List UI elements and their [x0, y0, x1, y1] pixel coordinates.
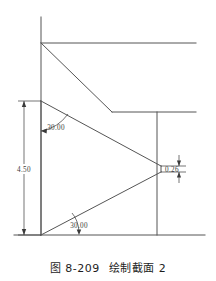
cad-drawing-canvas: 4.50 4.50 30.00 30.00 0.26 — [0, 0, 216, 281]
technical-drawing-figure: 4.50 4.50 30.00 30.00 0.26 — [0, 0, 216, 281]
wedge-upper-face — [41, 101, 161, 166]
figure-caption: 图 8-209绘制截面 2 — [0, 259, 216, 275]
height-arrow-bottom — [22, 229, 26, 235]
figure-caption-title: 绘制截面 2 — [109, 262, 167, 275]
height-arrow-top — [22, 101, 26, 107]
wedge-lower-face — [41, 172, 161, 235]
outline-geometry — [14, 17, 205, 235]
lower-angle-arrow — [77, 229, 82, 235]
figure-caption-number: 图 8-209 — [50, 262, 100, 275]
chamfer-diagonal-edge — [41, 43, 112, 112]
lower-angle-label: 30.00 — [70, 222, 88, 230]
apex-gap-label: 0.26 — [165, 166, 179, 174]
height-dimension-label-text: 4.50 — [17, 166, 31, 174]
upper-angle-arrow — [41, 129, 47, 134]
upper-angle-label: 30.00 — [47, 124, 65, 132]
